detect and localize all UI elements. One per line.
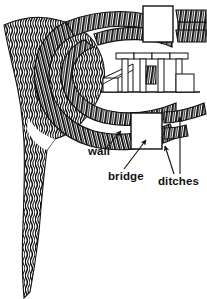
label-wall: wall — [87, 145, 110, 157]
temple-inner-structure — [146, 66, 156, 84]
site-plan-figure: wall bridge ditches — [0, 0, 207, 299]
label-bridge: bridge — [108, 170, 144, 182]
temple-side-wall — [176, 74, 194, 92]
label-ditches: ditches — [158, 175, 199, 187]
